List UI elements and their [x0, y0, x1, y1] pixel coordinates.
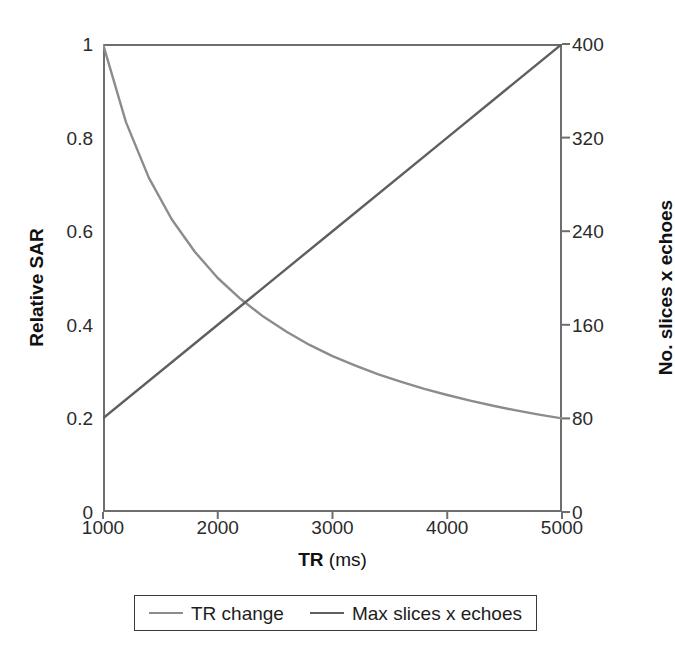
- legend-entry[interactable]: Max slices x echoes: [310, 604, 522, 623]
- x-axis-title-bold: TR: [298, 549, 323, 570]
- y-axis-left-title: Relative SAR: [27, 188, 46, 388]
- x-axis-tick-label: 5000: [541, 518, 583, 537]
- chart-figure: 00.20.40.60.81 080160240320400 100020003…: [0, 0, 675, 651]
- legend-color-swatch: [310, 612, 344, 614]
- legend-color-swatch: [149, 612, 183, 614]
- legend-label: TR change: [191, 604, 284, 623]
- chart-legend: TR changeMax slices x echoes: [134, 595, 537, 631]
- x-axis-tick-label: 2000: [197, 518, 239, 537]
- legend-label: Max slices x echoes: [352, 604, 522, 623]
- legend-entry[interactable]: TR change: [149, 604, 284, 623]
- x-axis-title-unit: (ms): [324, 549, 367, 570]
- x-axis-tick-label: 1000: [82, 518, 124, 537]
- y-axis-right-title: No. slices x echoes: [656, 168, 675, 408]
- x-axis-tick-label: 3000: [311, 518, 353, 537]
- x-axis-tick-label: 4000: [426, 518, 468, 537]
- x-axis-title: TR (ms): [103, 550, 562, 569]
